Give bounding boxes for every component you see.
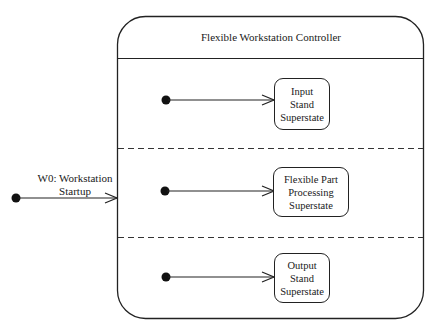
superstate-container bbox=[118, 17, 424, 319]
state-output-stand-superstate[interactable]: Output Stand Superstate bbox=[274, 253, 330, 303]
state-label: Output Stand Superstate bbox=[280, 259, 324, 298]
diagram-canvas bbox=[0, 0, 434, 330]
transition-label-workstation-startup: W0: Workstation Startup bbox=[30, 172, 120, 198]
state-label: Input Stand Superstate bbox=[280, 85, 324, 124]
superstate-title: Flexible Workstation Controller bbox=[118, 31, 424, 43]
state-flexible-part-processing-superstate[interactable]: Flexible Part Processing Superstate bbox=[273, 167, 349, 217]
state-input-stand-superstate[interactable]: Input Stand Superstate bbox=[274, 78, 330, 130]
state-label: Flexible Part Processing Superstate bbox=[284, 173, 338, 212]
